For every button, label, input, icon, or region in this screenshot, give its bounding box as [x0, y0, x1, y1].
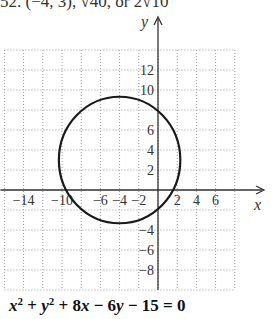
x-tick-label: −14 — [13, 193, 35, 208]
circle-graph: xy−14−10−6−4−22461210642−4−6−8 — [0, 0, 273, 300]
x-axis-label: x — [253, 196, 261, 213]
x-tick-label: −2 — [131, 193, 146, 208]
x-tick-label: 2 — [174, 193, 181, 208]
x-tick-label: 6 — [212, 193, 219, 208]
y-tick-label: 4 — [147, 143, 154, 158]
eq-8: + 8 — [54, 296, 81, 315]
eq-6: − 6 — [89, 296, 116, 315]
y-tick-label: −8 — [139, 263, 154, 278]
y-tick-label: 2 — [147, 163, 154, 178]
eq-plus: + — [23, 296, 41, 315]
y-tick-label: −4 — [139, 223, 154, 238]
eq-x: x — [9, 296, 18, 315]
x-tick-label: −4 — [112, 193, 127, 208]
circle-equation: x2 + y2 + 8x − 6y − 15 = 0 — [9, 296, 186, 316]
y-axis-label: y — [139, 13, 149, 31]
y-tick-label: 12 — [140, 63, 154, 78]
y-tick-label: −6 — [139, 243, 154, 258]
eq-y2: y — [116, 296, 124, 315]
eq-tail: − 15 = 0 — [124, 296, 186, 315]
eq-y: y — [41, 296, 49, 315]
y-tick-label: 10 — [140, 83, 154, 98]
y-tick-label: 6 — [147, 123, 154, 138]
x-tick-label: 4 — [193, 193, 200, 208]
x-tick-label: −6 — [93, 193, 108, 208]
